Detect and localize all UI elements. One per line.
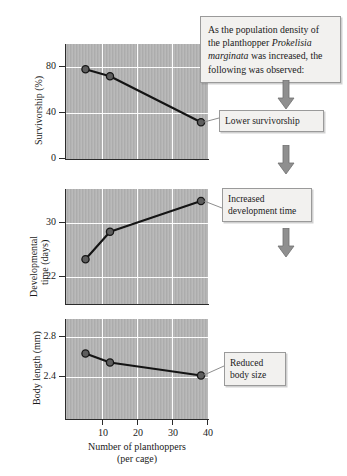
x-axis-label-line-1: Number of planthoppers xyxy=(37,441,237,453)
y-tick-label-30: 30 xyxy=(38,217,56,227)
x-tick-mark xyxy=(172,420,173,425)
annotation-line-2: development time xyxy=(228,205,306,217)
annotation-line-1: Increased xyxy=(228,193,306,205)
gridline-horizontal xyxy=(66,223,208,224)
annotation-line-1: Reduced xyxy=(230,357,280,369)
annotation-line-2: body size xyxy=(230,369,280,381)
gridline-horizontal xyxy=(66,377,208,378)
arrow-down-icon xyxy=(277,228,295,258)
y-tick-mark xyxy=(59,112,65,113)
plot-area-developmental-time xyxy=(66,189,208,304)
gridline-horizontal xyxy=(66,277,208,278)
y-tick-mark xyxy=(59,276,65,277)
gridline-vertical xyxy=(102,189,103,304)
x-tick-label-40: 40 xyxy=(196,428,220,438)
x-tick-label-10: 10 xyxy=(91,428,115,438)
gridline-horizontal xyxy=(66,67,208,68)
x-axis-line-survivorship xyxy=(65,159,209,160)
gridline-vertical xyxy=(137,319,138,419)
y-axis-line-body-length xyxy=(65,319,66,420)
y-axis-label-body-length: Body length (mm) xyxy=(31,331,42,405)
y-axis-label-developmental-time-line1: Developmental xyxy=(28,236,39,297)
y-tick-mark xyxy=(59,376,65,377)
y-tick-mark xyxy=(59,66,65,67)
gridline-vertical xyxy=(137,44,138,159)
y-tick-label-80: 80 xyxy=(38,61,56,71)
x-tick-label-30: 30 xyxy=(161,428,185,438)
y-axis-line-survivorship xyxy=(65,44,66,160)
y-axis-line-developmental-time xyxy=(65,189,66,305)
gridline-vertical xyxy=(172,319,173,419)
gridline-vertical xyxy=(137,189,138,304)
plot-area-body-length xyxy=(66,319,208,419)
intro-text-box: As the population density of the plantho… xyxy=(200,16,341,83)
y-tick-mark xyxy=(59,158,65,159)
annotation-lower-survivorship: Lower survivorship xyxy=(219,110,324,132)
annotation-reduced-body-size: Reduced body size xyxy=(224,352,286,386)
plot-area-survivorship xyxy=(66,44,208,159)
y-tick-label-0: 0 xyxy=(38,153,56,163)
gridline-vertical xyxy=(172,189,173,304)
arrow-down-icon xyxy=(277,145,295,175)
gridline-vertical xyxy=(172,44,173,159)
x-axis-line-developmental-time xyxy=(65,304,209,305)
arrow-down-icon xyxy=(277,80,295,110)
gridline-horizontal xyxy=(66,113,208,114)
gridline-horizontal xyxy=(66,337,208,338)
x-axis-label-line-2: (per cage) xyxy=(37,453,237,465)
y-tick-mark xyxy=(59,336,65,337)
x-tick-mark xyxy=(102,420,103,425)
y-axis-label-developmental-time-line2: time (days) xyxy=(39,240,50,285)
x-tick-label-20: 20 xyxy=(126,428,150,438)
y-tick-mark xyxy=(59,222,65,223)
y-axis-label-survivorship: Survivorship (%) xyxy=(33,76,44,145)
gridline-vertical xyxy=(102,319,103,419)
annotation-increased-development-time: Increased development time xyxy=(222,188,312,222)
x-tick-mark xyxy=(207,420,208,425)
gridline-vertical xyxy=(102,44,103,159)
x-tick-mark xyxy=(137,420,138,425)
